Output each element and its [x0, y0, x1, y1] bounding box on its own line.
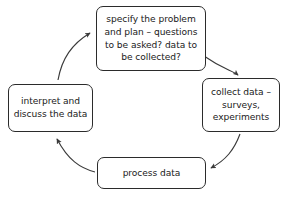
node-collect-label: collect data – surveys, experiments	[207, 86, 275, 125]
arrow-process-to-interpret	[57, 139, 95, 172]
arrow-specify-to-collect	[204, 56, 238, 75]
node-process-label: process data	[102, 167, 201, 180]
arrow-collect-to-process	[211, 134, 240, 168]
node-specify-label: specify the problem and plan – questions…	[101, 13, 201, 65]
arrow-interpret-to-specify	[58, 33, 90, 80]
node-collect-data[interactable]: collect data – surveys, experiments	[202, 78, 280, 132]
node-interpret-label: interpret and discuss the data	[13, 95, 88, 121]
node-interpret-and-discuss-the-data[interactable]: interpret and discuss the data	[8, 84, 93, 132]
diagram-canvas: specify the problem and plan – questions…	[0, 0, 284, 199]
node-process-data[interactable]: process data	[97, 157, 206, 189]
node-specify-the-problem-and-plan[interactable]: specify the problem and plan – questions…	[96, 6, 206, 71]
